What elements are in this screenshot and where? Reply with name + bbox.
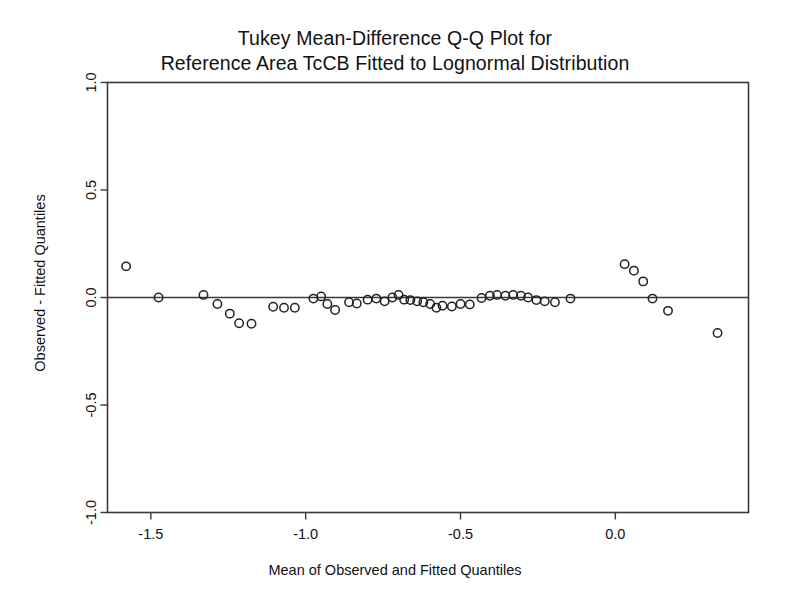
x-tick-labels: -1.5-1.0-0.50.0	[138, 526, 625, 542]
y-axis-label: Observed - Fitted Quantiles	[32, 163, 48, 403]
data-point-marker	[226, 309, 234, 317]
data-point-marker	[291, 304, 299, 312]
data-point-marker	[620, 260, 628, 268]
data-point-marker	[372, 294, 380, 302]
data-point-marker	[466, 300, 474, 308]
data-point-marker	[331, 306, 339, 314]
data-point-marker	[235, 319, 243, 327]
x-tick-label: 0.0	[605, 526, 625, 542]
x-tick-label: -1.5	[138, 526, 163, 542]
y-tick-label: -1.0	[83, 500, 99, 525]
y-tick-labels: -1.0-0.50.00.51.0	[83, 72, 99, 525]
data-point-marker	[345, 298, 353, 306]
x-tick-label: -0.5	[448, 526, 473, 542]
y-tick-label: -0.5	[83, 393, 99, 418]
data-points-group	[122, 260, 722, 337]
data-point-marker	[323, 300, 331, 308]
data-point-marker	[639, 277, 647, 285]
data-point-marker	[551, 298, 559, 306]
data-point-marker	[630, 266, 638, 274]
qq-plot-figure: Tukey Mean-Difference Q-Q Plot for Refer…	[0, 0, 790, 609]
x-tick-label: -1.0	[293, 526, 318, 542]
data-point-marker	[280, 304, 288, 312]
data-point-marker	[213, 300, 221, 308]
y-tick-label: 1.0	[83, 72, 99, 92]
data-point-marker	[247, 320, 255, 328]
y-tick-label: 0.5	[83, 180, 99, 200]
data-point-marker	[448, 302, 456, 310]
data-point-marker	[122, 262, 130, 270]
data-point-marker	[648, 294, 656, 302]
axes-group	[101, 83, 749, 520]
data-point-marker	[566, 294, 574, 302]
data-point-marker	[713, 329, 721, 337]
data-point-marker	[317, 292, 325, 300]
data-point-marker	[541, 297, 549, 305]
data-point-marker	[353, 299, 361, 307]
x-axis-label: Mean of Observed and Fitted Quantiles	[0, 562, 790, 578]
data-point-marker	[269, 303, 277, 311]
y-tick-label: 0.0	[83, 287, 99, 307]
data-point-marker	[664, 307, 672, 315]
data-point-marker	[456, 300, 464, 308]
plot-canvas: -1.5-1.0-0.50.0 -1.0-0.50.00.51.0	[0, 0, 790, 609]
data-point-marker	[363, 295, 371, 303]
